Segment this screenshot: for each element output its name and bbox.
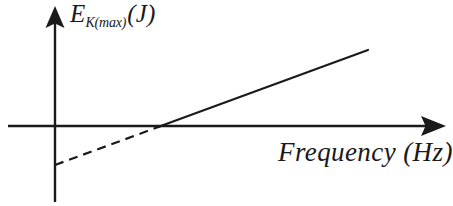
kinetic-energy-line [158, 50, 368, 127]
y-axis-label-subscript: K(max) [85, 15, 126, 30]
graph-canvas [0, 0, 453, 206]
photoelectric-effect-graph: EK(max)(J) Frequency (Hz) [0, 0, 453, 206]
y-axis-label-unit: (J) [127, 0, 155, 27]
y-axis-label-symbol: E [70, 0, 85, 27]
axes-group [8, 6, 446, 202]
extrapolation-dashed-line [55, 126, 161, 165]
x-axis-label: Frequency (Hz) [278, 139, 453, 166]
y-axis-label: EK(max)(J) [70, 1, 156, 26]
